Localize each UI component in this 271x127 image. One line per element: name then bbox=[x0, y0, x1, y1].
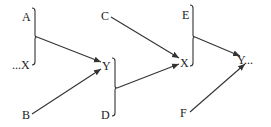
arrow-ex-to-y bbox=[195, 37, 240, 56]
arrow-yd-to-x bbox=[117, 64, 179, 88]
node-b: B bbox=[22, 108, 30, 122]
node-x-start: ...X bbox=[12, 58, 30, 72]
node-f: F bbox=[180, 106, 187, 120]
node-a: A bbox=[22, 10, 31, 24]
causal-chain-diagram: A ...X B Y D C X E Y... F bbox=[0, 0, 271, 127]
node-e: E bbox=[182, 8, 189, 22]
node-x-middle: X bbox=[180, 56, 189, 70]
arrow-ax-to-y bbox=[37, 37, 101, 62]
bracket-y-d bbox=[112, 58, 117, 116]
node-d: D bbox=[101, 108, 110, 122]
arrow-f-to-y bbox=[190, 64, 245, 112]
arrow-b-to-y bbox=[32, 69, 101, 114]
node-y-middle: Y bbox=[102, 59, 111, 73]
bracket-e-x bbox=[190, 5, 195, 66]
node-c: C bbox=[101, 9, 109, 23]
arrow-c-to-x bbox=[111, 17, 179, 58]
bracket-a-x bbox=[32, 8, 37, 65]
node-y-end: Y... bbox=[237, 53, 253, 67]
